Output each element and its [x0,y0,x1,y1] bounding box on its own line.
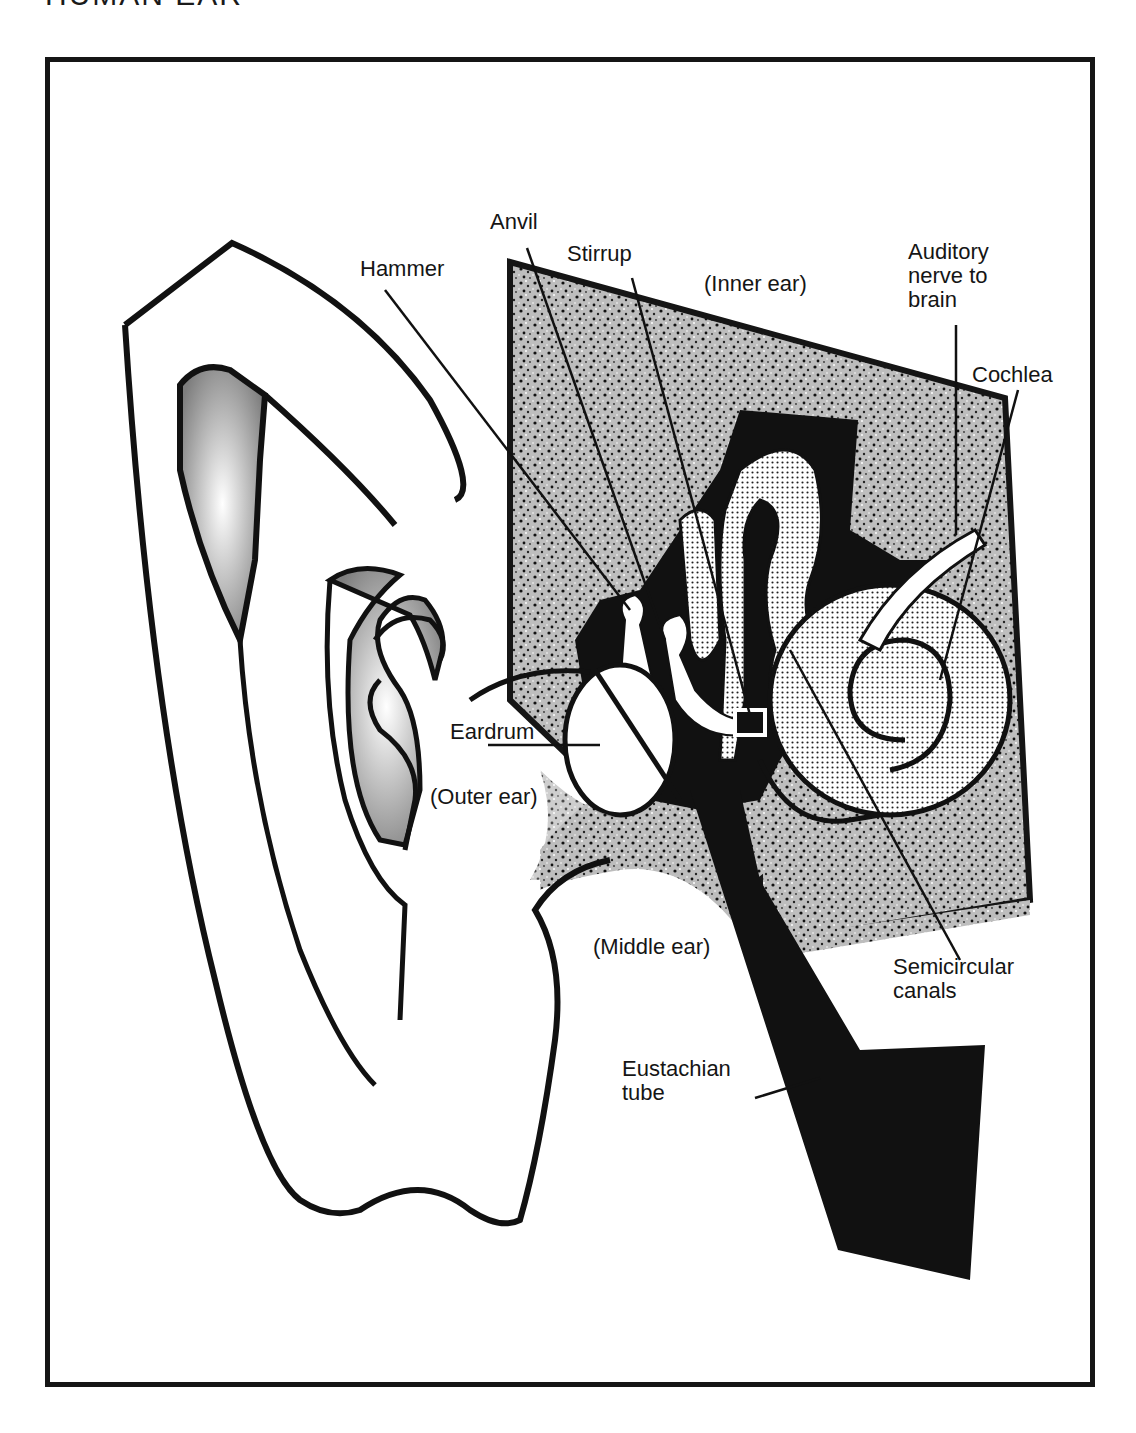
label-anvil: Anvil [490,210,538,234]
label-outer-ear: (Outer ear) [430,785,538,809]
label-semicircular-canals: Semicircular canals [893,955,1014,1003]
label-inner-ear: (Inner ear) [704,272,807,296]
label-auditory-nerve: Auditory nerve to brain [908,240,989,312]
label-stirrup: Stirrup [567,242,632,266]
label-middle-ear: (Middle ear) [593,935,710,959]
label-eardrum: Eardrum [450,720,534,744]
label-cochlea: Cochlea [972,363,1053,387]
label-hammer: Hammer [360,257,444,281]
ear-diagram [0,0,1136,1433]
label-eustachian-tube: Eustachian tube [622,1057,731,1105]
